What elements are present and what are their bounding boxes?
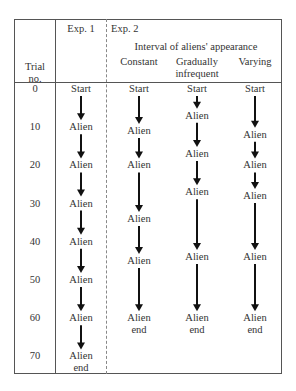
arrow-head-icon <box>135 205 143 212</box>
arrow-head-icon <box>77 113 85 120</box>
arrow-head-icon <box>193 243 201 250</box>
arrow-head-icon <box>193 102 201 109</box>
arrow-head-icon <box>251 243 259 250</box>
arrow-head-icon <box>251 182 259 189</box>
arrow-head-icon <box>135 151 143 158</box>
arrow-head-icon <box>77 228 85 235</box>
arrow-head-icon <box>77 304 85 311</box>
arrow-head-icon <box>193 140 201 147</box>
arrow-head-icon <box>77 151 85 158</box>
alien-schedule-table: Trial no. Exp. 1 Exp. 2 Interval of alie… <box>0 0 296 391</box>
arrows-layer <box>0 0 296 391</box>
arrow-head-icon <box>77 342 85 349</box>
arrow-head-icon <box>193 304 201 311</box>
arrow-head-icon <box>135 304 143 311</box>
arrow-head-icon <box>251 151 259 158</box>
arrow-head-icon <box>251 304 259 311</box>
arrow-head-icon <box>193 178 201 185</box>
arrow-head-icon <box>135 247 143 254</box>
arrow-head-icon <box>77 190 85 197</box>
arrow-head-icon <box>135 117 143 124</box>
arrow-head-icon <box>251 121 259 128</box>
arrow-head-icon <box>77 266 85 273</box>
